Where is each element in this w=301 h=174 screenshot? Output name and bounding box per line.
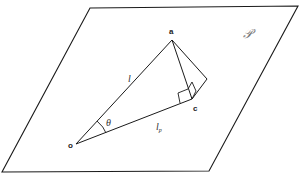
- plane-label: 𝒫: [243, 26, 256, 41]
- plane-outline: [2, 6, 298, 172]
- angle-arc-theta: [97, 121, 106, 133]
- segment-a-corner: [172, 40, 207, 79]
- segment-a-c: [172, 40, 192, 99]
- segment-o-c: [76, 99, 192, 144]
- edge-label-l: l: [128, 73, 131, 84]
- point-label-a: a: [169, 27, 174, 36]
- point-label-c: c: [193, 104, 198, 113]
- point-label-o: o: [68, 141, 73, 150]
- edge-label-lp-subscript: p: [158, 127, 162, 133]
- segment-corner-c: [192, 79, 207, 99]
- angle-label-theta: θ: [106, 117, 111, 128]
- edge-label-lp: lp: [156, 121, 162, 133]
- projection-diagram: a c o l lp θ 𝒫: [0, 0, 301, 174]
